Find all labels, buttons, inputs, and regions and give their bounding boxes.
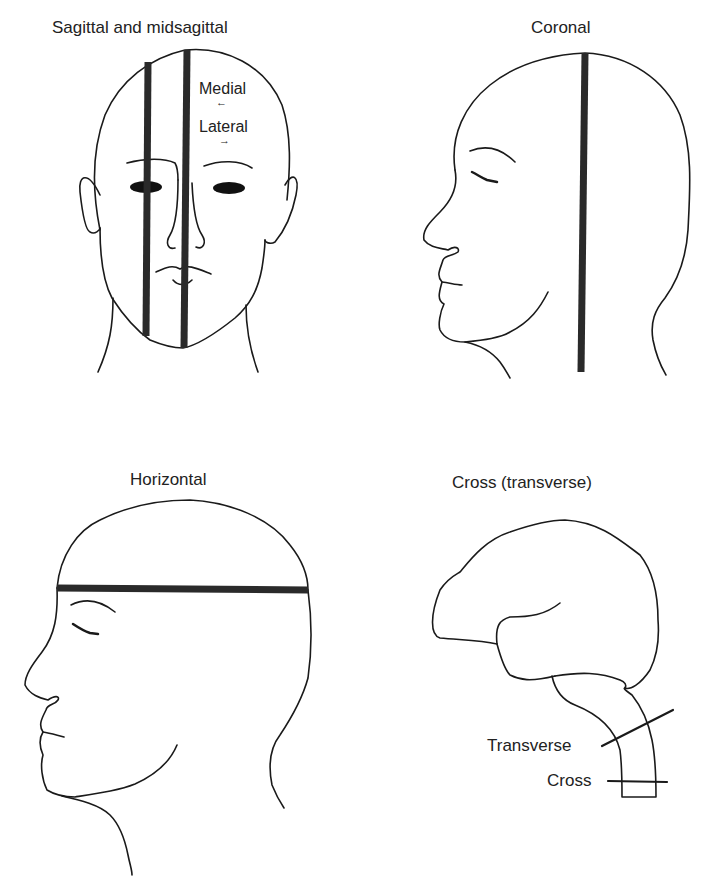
coronal-profile-illustration: [424, 53, 690, 378]
anatomical-planes-diagram: [0, 0, 706, 890]
cross-transverse-title: Cross (transverse): [452, 473, 592, 493]
horizontal-plane-line: [57, 588, 308, 590]
horizontal-title: Horizontal: [130, 470, 207, 490]
cross-label: Cross: [547, 771, 591, 791]
medial-arrow-icon: ←: [216, 96, 227, 108]
horizontal-profile-illustration: [25, 500, 311, 875]
midsagittal-plane-line: [184, 50, 187, 348]
right-eye: [213, 182, 245, 194]
sagittal-title: Sagittal and midsagittal: [52, 18, 228, 38]
transverse-label: Transverse: [487, 736, 571, 756]
lateral-arrow-icon: →: [219, 134, 230, 146]
coronal-plane-line: [581, 53, 585, 372]
transverse-plane-line: [602, 710, 673, 746]
coronal-title: Coronal: [531, 18, 591, 38]
front-face-illustration: [80, 49, 297, 372]
cross-plane-line: [608, 781, 667, 782]
sagittal-plane-line: [146, 62, 148, 336]
